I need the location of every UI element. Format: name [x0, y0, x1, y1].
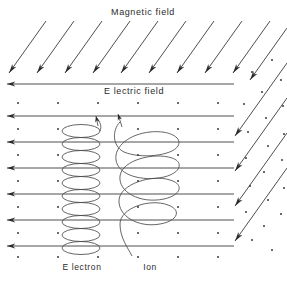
- electron-direction-arrow: [96, 116, 98, 126]
- electron-helix-trajectory: [62, 118, 101, 255]
- right-face-dots: [243, 59, 285, 251]
- electron-label: E lectron: [63, 262, 102, 272]
- physics-diagram: Magnetic field: [0, 0, 287, 285]
- magnetic-field-title: Magnetic field: [111, 7, 175, 17]
- magnetic-field-arrows-right: [233, 21, 287, 241]
- front-face-dots: [17, 102, 219, 258]
- ion-label: Ion: [143, 262, 157, 272]
- diagram-canvas: Magnetic field: [0, 0, 287, 285]
- electric-field-label: E lectric field: [104, 86, 164, 96]
- magnetic-field-arrows-top: [9, 21, 242, 73]
